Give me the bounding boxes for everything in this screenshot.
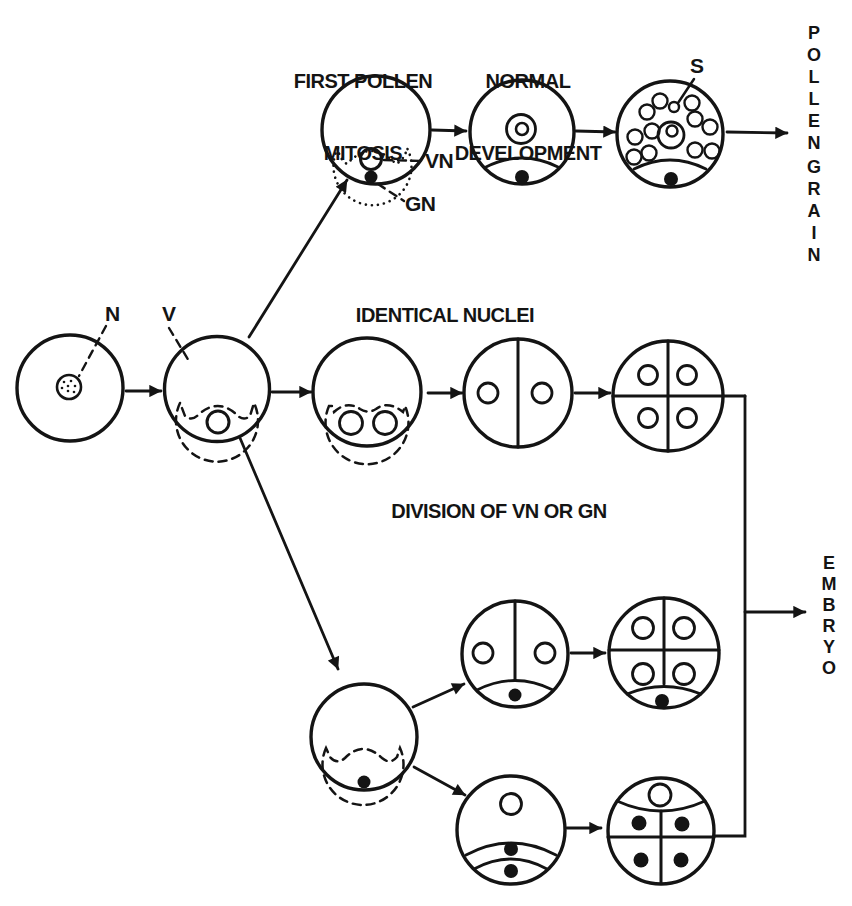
- generative-cell-wall: [634, 160, 706, 169]
- vegetative-derived-nucleus-left: [473, 643, 493, 663]
- flow-arrows: [126, 130, 805, 828]
- identical-nucleus: [678, 366, 697, 385]
- identical-nuclei-label: IDENTICAL NUCLEI: [345, 303, 545, 327]
- identical-nucleus-left: [478, 383, 498, 403]
- identical-nuclei-four-celled: [613, 341, 745, 451]
- v-leader-line: [169, 328, 189, 361]
- generative-cell-wall: [627, 687, 701, 695]
- first-pollen-mitosis-line1: FIRST POLLEN: [272, 69, 454, 93]
- vacuole-outline: [326, 405, 409, 464]
- identical-nucleus-right: [532, 383, 552, 403]
- vegetative-nucleus: [649, 784, 671, 806]
- identical-nucleus: [639, 366, 658, 385]
- vegetative-derived-nucleus: [674, 618, 695, 639]
- starch-callout-label: S: [690, 55, 704, 77]
- generative-nucleus-callout-label: GN: [405, 193, 436, 215]
- mature-pollen-cell: [617, 79, 723, 187]
- division-of-vn-or-gn-label: DIVISION OF VN OR GN: [379, 499, 619, 523]
- arrow-to-division-pathway: [240, 438, 338, 669]
- identical-nucleus-right: [374, 412, 397, 435]
- cell-wall: [165, 337, 270, 442]
- normal-development-line1: NORMAL: [438, 69, 618, 93]
- division-pathway-vacuolate-cell: [311, 684, 417, 805]
- generative-nucleus: [664, 172, 678, 186]
- gn-division-two-nuclei-cell: [457, 776, 565, 884]
- normal-development-line2: DEVELOPMENT: [438, 141, 618, 165]
- arrow-to-pollen-grain-label: [727, 132, 787, 133]
- first-pollen-mitosis-label: FIRST POLLEN MITOSIS: [272, 21, 454, 213]
- identical-nuclei-two-celled: [464, 339, 572, 447]
- vn-division-four-nuclei-cell: [609, 598, 719, 708]
- vegetative-nucleus: [501, 794, 522, 815]
- generative-nucleus: [358, 776, 371, 789]
- normal-development-label: NORMAL DEVELOPMENT: [438, 21, 618, 213]
- microspore-cell: [17, 326, 123, 441]
- embryo-connector-line: [714, 396, 745, 836]
- starch-grains: [627, 94, 720, 165]
- arrow-to-gn-division: [414, 767, 465, 795]
- vn-division-two-nuclei-cell: [462, 601, 568, 707]
- generative-nucleus-2: [504, 864, 518, 878]
- vegetative-derived-nucleus-right: [535, 643, 555, 663]
- pollen-grain-label-word2: GRAIN: [803, 157, 824, 267]
- vacuole-callout-label: V: [162, 303, 176, 325]
- microspore-nucleus: [207, 411, 229, 433]
- identical-nucleus: [678, 409, 697, 428]
- microspore-nucleus: [57, 375, 81, 399]
- generative-nucleus: [509, 689, 522, 702]
- identical-nuclei-binucleate-cell: [313, 338, 421, 464]
- nucleus-stipple: [61, 380, 77, 394]
- identical-nucleus-left: [340, 412, 363, 435]
- pollen-grain-label-word1: POLLEN: [803, 23, 824, 155]
- identical-nucleus: [639, 409, 658, 428]
- n-leader-line: [79, 326, 106, 376]
- gn-division-four-nuclei-cell: [608, 778, 714, 884]
- vegetative-nucleus-inner: [667, 126, 678, 137]
- cell-wall: [17, 335, 123, 441]
- generative-nucleus-1: [504, 842, 518, 856]
- arrow-to-vn-division: [413, 684, 464, 707]
- vegetative-nucleus-callout-label: VN: [425, 150, 453, 172]
- generative-nucleus: [655, 694, 669, 708]
- vegetative-derived-nucleus: [633, 618, 654, 639]
- vegetative-derived-nucleus: [674, 664, 695, 685]
- vegetative-derived-nucleus: [633, 664, 654, 685]
- pollen-embryogenesis-diagram: FIRST POLLEN MITOSIS NORMAL DEVELOPMENT …: [0, 0, 852, 906]
- cell-wall: [313, 338, 421, 446]
- nucleus-callout-label: N: [105, 303, 120, 325]
- vacuolate-microspore-cell: [165, 328, 270, 462]
- embryo-label: EMBRYO: [818, 553, 839, 679]
